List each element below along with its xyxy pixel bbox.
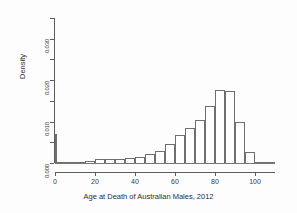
histogram-bar [155,151,165,163]
y-axis-tick-label: 0.000 [44,164,50,178]
y-axis-tick-label: 0.020 [44,81,50,95]
x-axis-tick-label: 80 [211,178,219,185]
x-axis-tick [175,172,176,176]
histogram-bar [245,152,255,163]
histogram-bar [215,90,225,163]
x-axis-title: Age at Death of Australian Males, 2012 [0,192,297,201]
histogram-bar [185,128,195,163]
y-axis-tick-label: 0.010 [44,122,50,136]
histogram-bar [195,120,205,163]
histogram-bar [55,134,57,163]
histogram-bar [225,91,235,163]
x-axis-tick [55,172,56,176]
y-axis-tick-minor [50,59,54,60]
y-axis-tick: 0.000 [50,163,54,164]
histogram-bar [165,144,175,163]
x-axis-tick [135,172,136,176]
x-axis-tick-label: 40 [131,178,139,185]
x-axis-tick-label: 100 [249,178,261,185]
x-axis-tick [215,172,216,176]
y-axis-tick-minor [50,101,54,102]
y-axis: 0.0000.0100.0200.030 [54,18,55,163]
histogram-bar [175,135,185,163]
x-axis-tick-label: 60 [171,178,179,185]
y-axis-tick-minor [50,142,54,143]
x-axis-tick [255,172,256,176]
y-axis-tick-minor [50,18,54,19]
y-axis-tick-label: 0.030 [44,39,50,53]
x-axis-tick-label: 0 [53,178,57,185]
histogram-baseline [55,163,275,164]
histogram-bar [145,154,155,163]
x-axis: 020406080100 [55,172,275,173]
histogram-bar [205,106,215,163]
y-axis-tick: 0.010 [50,122,54,123]
x-axis-tick-label: 20 [91,178,99,185]
y-axis-title: Density [18,32,27,102]
plot-area [55,18,275,163]
histogram-bar [235,122,245,163]
x-axis-tick [95,172,96,176]
y-axis-tick: 0.030 [50,39,54,40]
histogram-figure: 0.0000.0100.0200.030 020406080100 Age at… [0,0,297,213]
y-axis-tick: 0.020 [50,80,54,81]
